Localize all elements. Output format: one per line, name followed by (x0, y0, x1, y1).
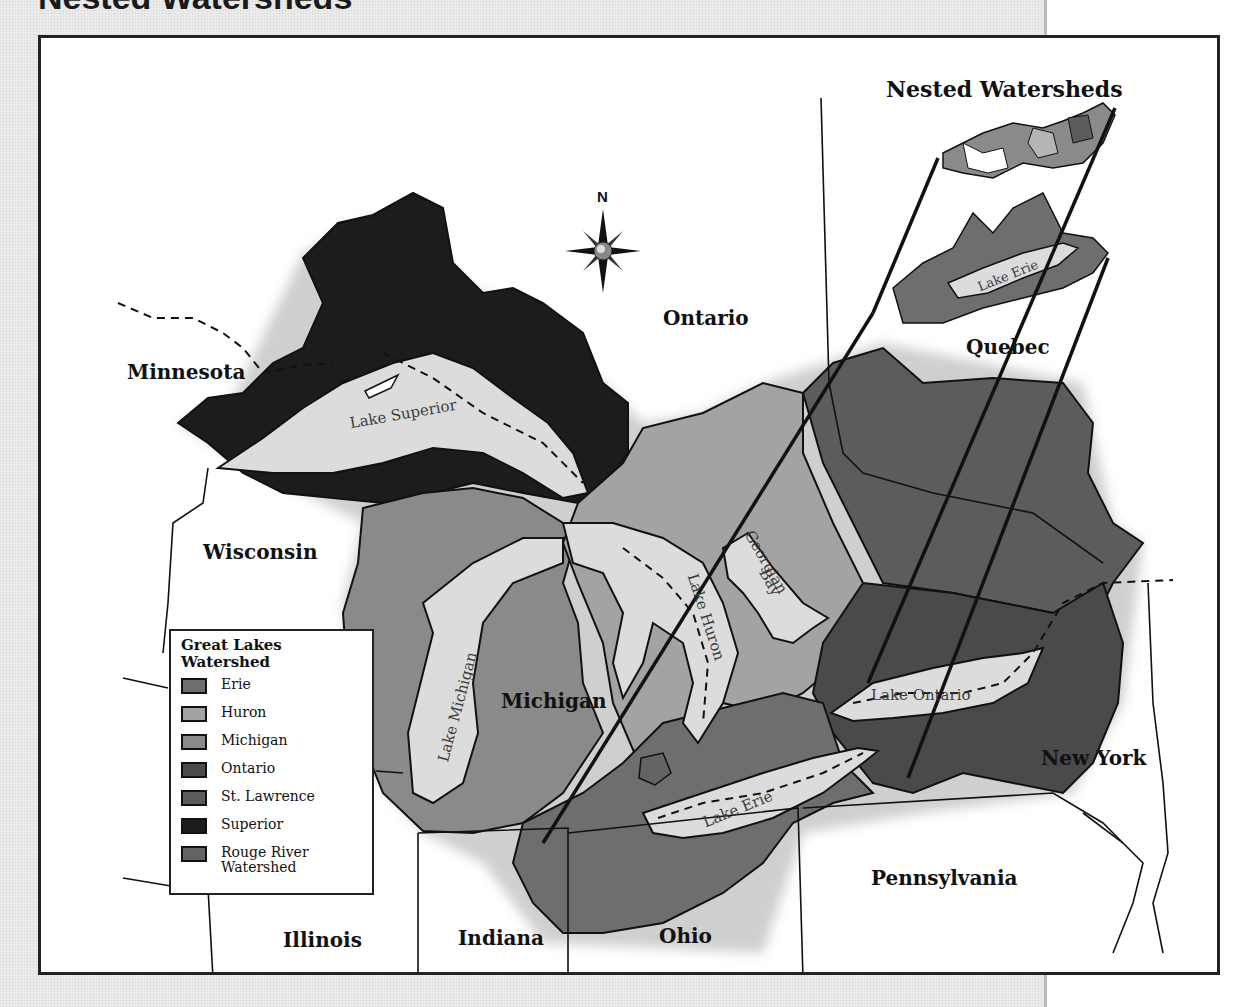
nested-watersheds-title: Nested Watersheds (886, 76, 1123, 102)
legend-item-st-lawrence: St. Lawrence (181, 789, 362, 817)
legend-item-superior: Superior (181, 817, 362, 845)
label-lake-ontario: Lake Ontario (871, 686, 971, 704)
nested-inset (893, 103, 1115, 323)
label-illinois: Illinois (283, 928, 362, 952)
legend-title-line1: Great Lakes (181, 637, 362, 654)
label-michigan: Michigan (501, 689, 607, 713)
swatch-huron (181, 706, 207, 722)
page-heading-cut-off: Nested Watersheds (38, 0, 352, 17)
swatch-superior (181, 818, 207, 834)
label-minnesota: Minnesota (127, 360, 245, 384)
label-ohio: Ohio (659, 924, 712, 948)
compass-north-label: N (597, 188, 608, 205)
swatch-erie (181, 678, 207, 694)
legend-label: St. Lawrence (221, 789, 315, 804)
legend-label: Huron (221, 705, 266, 720)
swatch-ontario (181, 762, 207, 778)
label-pennsylvania: Pennsylvania (871, 866, 1017, 890)
legend-item-michigan: Michigan (181, 733, 362, 761)
legend-label: Superior (221, 817, 283, 832)
label-indiana: Indiana (458, 926, 544, 950)
legend-label-line1: Rouge River (221, 844, 309, 860)
swatch-michigan (181, 734, 207, 750)
label-new-york: New York (1041, 746, 1146, 770)
legend-label: Rouge River Watershed (221, 845, 309, 875)
swatch-st-lawrence (181, 790, 207, 806)
label-ontario: Ontario (663, 306, 749, 330)
map-legend: Great Lakes Watershed Erie Huron Michiga… (169, 629, 374, 895)
legend-label-line2: Watershed (221, 859, 297, 875)
legend-title-line2: Watershed (181, 654, 362, 671)
legend-item-ontario: Ontario (181, 761, 362, 789)
legend-label: Erie (221, 677, 251, 692)
great-lakes-watershed-map: Nested Watersheds N Ontario Quebec Minne… (38, 35, 1220, 975)
legend-label: Michigan (221, 733, 287, 748)
legend-item-rouge-river: Rouge River Watershed (181, 845, 362, 885)
legend-item-erie: Erie (181, 677, 362, 705)
legend-title: Great Lakes Watershed (181, 637, 362, 671)
label-quebec: Quebec (966, 335, 1050, 359)
label-wisconsin: Wisconsin (203, 540, 317, 564)
compass-rose (565, 209, 641, 293)
swatch-rouge-river (181, 846, 207, 862)
legend-item-huron: Huron (181, 705, 362, 733)
legend-label: Ontario (221, 761, 275, 776)
